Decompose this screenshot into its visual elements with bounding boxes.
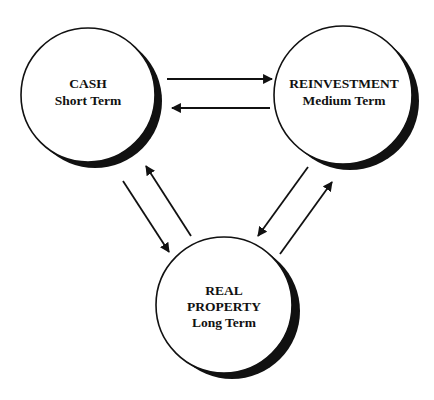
node-cash: CASH Short Term [21,28,162,168]
arrow-real-property-to-reinvestment [280,182,332,254]
node-subtitle: Medium Term [303,93,387,108]
node-subtitle: Long Term [192,315,257,330]
node-subtitle: Short Term [55,93,122,108]
node-title-2: PROPERTY [187,299,261,314]
node-title: CASH [69,76,107,91]
node-real-property: REAL PROPERTY Long Term [156,237,300,379]
node-reinvestment: REINVESTMENT Medium Term [274,26,419,170]
node-title: REINVESTMENT [289,76,399,91]
node-title: REAL [205,283,243,298]
cycle-diagram: CASH Short Term REINVESTMENT Medium Term… [0,0,434,400]
